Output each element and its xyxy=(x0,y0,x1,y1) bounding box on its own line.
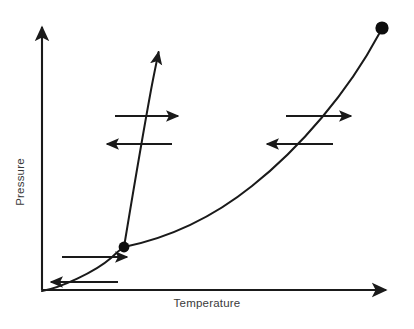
phase-boundary-curves xyxy=(42,34,379,291)
sublimation-curve xyxy=(42,247,124,291)
diagram-canvas xyxy=(0,0,414,329)
fusion-curve xyxy=(124,52,159,247)
y-axis-label: Pressure xyxy=(0,171,55,193)
key-points-group xyxy=(119,21,389,252)
phase-diagram-figure: Pressure Temperature xyxy=(0,0,414,329)
vaporization-curve xyxy=(124,34,379,247)
critical-point-marker xyxy=(375,21,388,34)
triple-point-marker xyxy=(119,242,130,253)
x-axis-label: Temperature xyxy=(0,297,414,309)
annotation-arrows-group xyxy=(51,116,351,282)
axes-group xyxy=(42,27,386,290)
